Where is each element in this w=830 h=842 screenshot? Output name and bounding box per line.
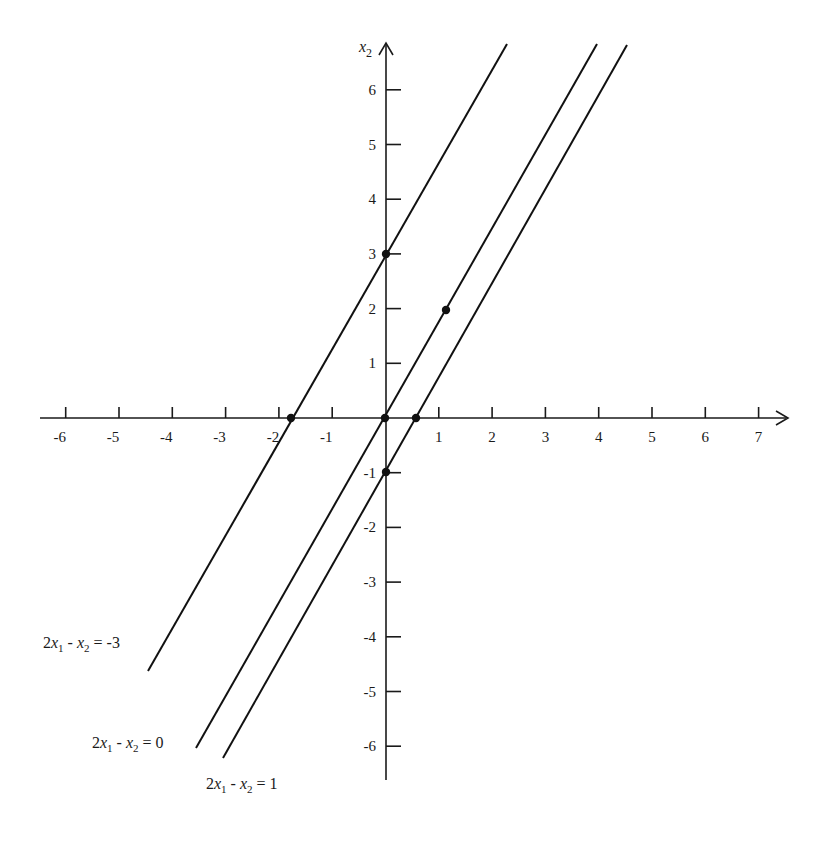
x-tick-label: 3 [542,429,550,445]
equation-label-1: 2x1 - x2 = 1 [206,775,278,795]
x-tick-label: 2 [488,429,496,445]
line-eq-minus3 [148,44,507,671]
x-tick-label: 7 [755,429,763,445]
y-tick-label: -5 [364,684,377,700]
chart-canvas: -6-5-4-3-2-11234567 654321-1-2-3-4-5-6 x… [0,0,830,842]
x-tick-label: -4 [160,429,173,445]
svg-text:2x1 - x2 = 1: 2x1 - x2 = 1 [206,775,278,795]
x-tick-label: 6 [702,429,710,445]
y-tick-label: 5 [369,137,377,153]
y-tick-label: -1 [364,465,377,481]
point-0.5-0 [412,414,420,422]
x-tick-label: 1 [435,429,443,445]
svg-text:2x1 - x2 = 0: 2x1 - x2 = 0 [92,734,164,754]
y-tick-label: -2 [364,519,377,535]
point-origin [381,414,389,422]
y-axis [379,43,393,780]
svg-text:x2: x2 [358,38,372,60]
line-eq-0 [196,44,597,748]
x-tick-label: -3 [213,429,226,445]
y-tick-label: 4 [369,191,377,207]
point-1-2 [442,306,450,314]
point-0-neg1 [382,468,390,476]
x-tick-label: -1 [320,429,333,445]
y-axis-label-sub: 2 [366,46,372,60]
equation-label-0: 2x1 - x2 = 0 [92,734,164,754]
y-tick-label: 1 [369,355,377,371]
x-tick-label: 4 [595,429,603,445]
x-axis-ticks: -6-5-4-3-2-11234567 [53,407,762,445]
y-tick-label: 3 [369,246,377,262]
x-tick-label: -5 [107,429,120,445]
x-tick-label: -2 [267,429,280,445]
y-tick-label: -6 [364,738,377,754]
equation-label-minus3: 2x1 - x2 = -3 [43,634,120,654]
y-tick-label: -3 [364,574,377,590]
x-tick-label: 5 [648,429,656,445]
point-0-3 [382,250,390,258]
y-axis-label: x2 [358,38,372,60]
line-eq-1 [223,45,627,758]
x-tick-label: -6 [53,429,66,445]
point-neg1.5-0 [287,414,295,422]
y-axis-label-base: x [358,38,366,55]
y-tick-label: 6 [369,82,377,98]
line-series [148,44,627,758]
y-tick-label: 2 [369,301,377,317]
y-tick-label: -4 [364,629,377,645]
svg-text:2x1 - x2 = -3: 2x1 - x2 = -3 [43,634,120,654]
